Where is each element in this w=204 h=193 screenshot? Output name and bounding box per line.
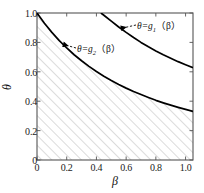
ytick-label-2: 0.4	[25, 96, 37, 107]
y-axis-title: θ	[0, 84, 15, 90]
ytick-label-0: 0	[32, 155, 37, 166]
annotation-g2-prefix: θ=g	[77, 44, 93, 54]
chart-figure: 0 0.2 0.4 0.6 0.8 1.0 0 0.2 0.4 0.6 0.8 …	[0, 0, 204, 193]
annotation-label-g2: θ=g2（β）	[77, 41, 121, 56]
annotation-g1-suffix: （β）	[156, 21, 181, 31]
ytick-label-4: 0.8	[25, 37, 37, 48]
ytick-label-3: 0.6	[25, 66, 37, 77]
ytick-label-5: 1.0	[25, 8, 37, 19]
hatched-region	[37, 13, 193, 160]
xtick-label-3: 0.6	[120, 162, 132, 173]
annotation-g1-prefix: θ=g	[137, 21, 153, 31]
xtick-label-1: 0.2	[61, 162, 73, 173]
annotation-label-g1: θ=g1（β）	[137, 18, 181, 33]
annotation-arrow-g1	[121, 25, 136, 28]
xtick-label-4: 0.8	[150, 162, 162, 173]
xtick-label-5: 1.0	[180, 162, 192, 173]
x-axis-title: β	[112, 174, 118, 189]
ytick-label-1: 0.2	[25, 125, 37, 136]
xtick-label-2: 0.4	[90, 162, 102, 173]
annotation-g2-suffix: （β）	[96, 44, 121, 54]
